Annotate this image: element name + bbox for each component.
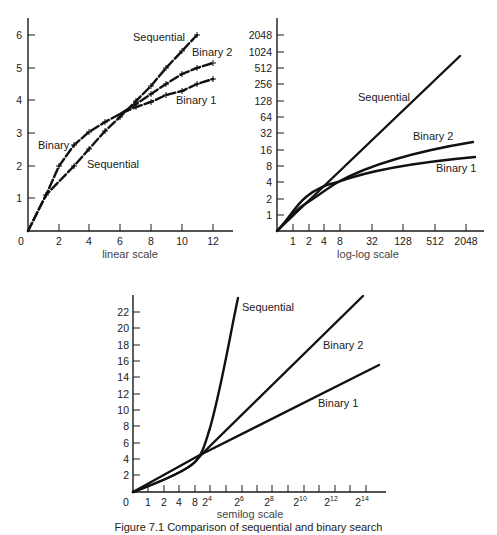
x-tick-label: 32 bbox=[366, 235, 378, 247]
x-tick-label: 2 bbox=[306, 235, 312, 247]
x-tick-label: 4 bbox=[321, 235, 327, 247]
y-tick-label: 3 bbox=[16, 127, 22, 139]
x-axis-title: log-log scale bbox=[337, 248, 399, 260]
y-tick-label: 22 bbox=[117, 306, 129, 318]
label-sequential-top: Sequential bbox=[133, 31, 185, 43]
x-tick-label: 8 bbox=[337, 235, 343, 247]
y-tick-label: 10 bbox=[117, 404, 129, 416]
x-ticks: 0 1 2 4 8 24 26 28 210 212 214 bbox=[123, 485, 369, 508]
x-tick-label-pow: 210 bbox=[293, 495, 307, 508]
y-tick-label: 12 bbox=[117, 388, 129, 400]
series-binary2-line bbox=[277, 142, 473, 231]
y-tick-label: 4 bbox=[266, 176, 272, 188]
x-tick-label: 8 bbox=[148, 235, 154, 247]
y-ticks: 2 4 6 8 10 12 14 16 18 20 22 bbox=[117, 306, 140, 481]
x-tick-label: 2048 bbox=[454, 235, 478, 247]
y-tick-label: 256 bbox=[254, 78, 272, 90]
y-ticks: 1 2 4 8 16 32 64 128 256 512 1024 2048 bbox=[249, 29, 284, 221]
y-tick-label: 64 bbox=[260, 111, 272, 123]
y-tick-label: 5 bbox=[16, 62, 22, 74]
label-binary-1: Binary 1 bbox=[318, 397, 358, 409]
label-sequential-low: Sequential bbox=[87, 158, 139, 170]
series-binary1-line bbox=[133, 365, 379, 492]
y-tick-label: 32 bbox=[260, 127, 272, 139]
x-tick-label: 12 bbox=[207, 235, 219, 247]
x-tick-label-pow: 214 bbox=[355, 495, 369, 508]
y-tick-label: 14 bbox=[117, 371, 129, 383]
x-tick-label-pow: 28 bbox=[264, 495, 274, 508]
x-tick-label: 2 bbox=[56, 235, 62, 247]
y-tick-label: 2 bbox=[16, 160, 22, 172]
y-tick-label: 16 bbox=[260, 144, 272, 156]
x-axis-title: linear scale bbox=[102, 248, 158, 260]
x-tick-label: 1 bbox=[290, 235, 296, 247]
x-tick-label: 0 bbox=[18, 235, 24, 247]
x-tick-label-pow: 26 bbox=[234, 495, 244, 508]
y-tick-label: 1024 bbox=[249, 46, 273, 58]
y-tick-label: 4 bbox=[123, 453, 129, 465]
label-sequential: Sequential bbox=[358, 91, 410, 103]
y-tick-label: 18 bbox=[117, 339, 129, 351]
label-binary-1: Binary 1 bbox=[436, 162, 476, 174]
y-tick-label: 20 bbox=[117, 322, 129, 334]
x-axis-title: semilog scale bbox=[217, 508, 284, 520]
x-tick-label: 128 bbox=[394, 235, 412, 247]
y-tick-label: 512 bbox=[254, 62, 272, 74]
y-tick-label: 2 bbox=[266, 193, 272, 205]
x-tick-label: 8 bbox=[192, 496, 198, 508]
figure-caption: Figure 7.1 Comparison of sequential and … bbox=[0, 521, 497, 533]
x-tick-label: 10 bbox=[176, 235, 188, 247]
data-point-markers bbox=[43, 32, 216, 198]
chart-linear-scale: 1 2 3 4 5 6 0 2 4 6 8 10 12 linear scale bbox=[16, 18, 233, 260]
chart-log-log-scale: 1 2 4 8 16 32 64 128 256 512 1024 2048 1… bbox=[249, 18, 484, 260]
x-tick-label: 6 bbox=[117, 235, 123, 247]
series-binary2-line bbox=[133, 296, 363, 492]
x-tick-label-pow: 24 bbox=[202, 495, 212, 508]
y-tick-label: 8 bbox=[123, 420, 129, 432]
label-binary-2: Binary 2 bbox=[413, 130, 453, 142]
y-tick-label: 6 bbox=[123, 437, 129, 449]
y-tick-label: 1 bbox=[266, 209, 272, 221]
y-tick-label: 16 bbox=[117, 355, 129, 367]
x-tick-label-pow: 212 bbox=[324, 495, 338, 508]
chart-semilog-scale: 2 4 6 8 10 12 14 16 18 20 22 bbox=[117, 295, 386, 520]
y-ticks: 1 2 3 4 5 6 bbox=[16, 29, 35, 204]
y-tick-label: 128 bbox=[254, 95, 272, 107]
figure-canvas: 1 2 3 4 5 6 0 2 4 6 8 10 12 linear scale bbox=[0, 0, 497, 535]
label-binary-2: Binary 2 bbox=[192, 46, 232, 58]
label-binary-2: Binary 2 bbox=[323, 339, 363, 351]
y-tick-label: 2048 bbox=[249, 29, 273, 41]
x-tick-label: 4 bbox=[86, 235, 92, 247]
x-tick-label: 2 bbox=[161, 496, 167, 508]
x-ticks: 0 2 4 6 8 10 12 bbox=[18, 224, 219, 247]
y-tick-label: 6 bbox=[16, 29, 22, 41]
label-binary: Binary bbox=[38, 139, 70, 151]
x-tick-label: 1 bbox=[145, 496, 151, 508]
label-binary-1: Binary 1 bbox=[176, 94, 216, 106]
label-sequential: Sequential bbox=[242, 301, 294, 313]
x-tick-label: 0 bbox=[123, 496, 129, 508]
y-tick-label: 2 bbox=[123, 469, 129, 481]
x-tick-label: 4 bbox=[176, 496, 182, 508]
x-tick-label: 512 bbox=[426, 235, 444, 247]
y-tick-label: 4 bbox=[16, 94, 22, 106]
series-sequential-line bbox=[28, 35, 197, 231]
x-ticks: 1 2 4 8 32 128 512 2048 bbox=[290, 224, 478, 247]
y-tick-label: 1 bbox=[16, 192, 22, 204]
y-tick-label: 8 bbox=[266, 160, 272, 172]
